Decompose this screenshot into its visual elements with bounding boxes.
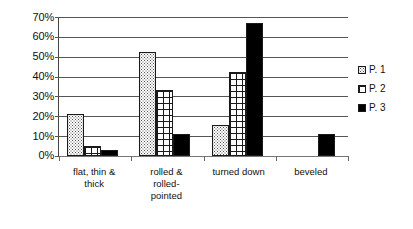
- y-axis-tick-label: 50%: [0, 51, 54, 62]
- x-axis-label-line: turned down: [203, 166, 275, 178]
- gridline: [59, 116, 348, 117]
- gridline: [59, 136, 348, 137]
- x-axis-label-line: beveled: [275, 166, 347, 178]
- x-axis-tick: [204, 156, 205, 161]
- gridline: [59, 77, 348, 78]
- legend-item-p3: P. 3: [358, 98, 413, 117]
- bar-series-3-category-1: [101, 150, 118, 156]
- x-axis-label-line: rolled-: [130, 178, 202, 190]
- gridline: [59, 17, 348, 18]
- y-axis-tick-label: 70%: [0, 12, 54, 23]
- plot-area: [58, 17, 348, 157]
- y-axis-tick-label: 10%: [0, 131, 54, 142]
- x-axis-label-line: pointed: [130, 190, 202, 202]
- bar-series-2-category-2: [156, 90, 173, 156]
- bar-series-1-category-1: [67, 114, 84, 156]
- x-axis-label-line: thick: [58, 178, 130, 190]
- gridline: [59, 96, 348, 97]
- legend-item-p1: P. 1: [358, 60, 413, 79]
- y-axis-tick: [55, 96, 59, 97]
- x-axis-label-line: rolled &: [130, 166, 202, 178]
- bar-series-2-category-3: [229, 72, 246, 156]
- bar-chart: 70% 60% 50% 40% 30% 20% 10% 0%: [0, 0, 413, 229]
- bar-series-2-category-1: [84, 146, 101, 156]
- y-axis-tick-label: 60%: [0, 31, 54, 42]
- legend-swatch-icon: [358, 66, 366, 74]
- legend-label: P. 2: [369, 84, 386, 94]
- bar-series-3-category-4: [318, 134, 335, 156]
- bar-series-3-category-2: [173, 134, 190, 156]
- bar-series-1-category-2: [139, 52, 156, 156]
- y-axis-tick-label: 20%: [0, 111, 54, 122]
- x-axis-tick: [276, 156, 277, 161]
- y-axis-tick: [55, 37, 59, 38]
- legend-swatch-icon: [358, 104, 366, 112]
- y-axis-tick-label: 40%: [0, 71, 54, 82]
- y-axis-tick: [55, 57, 59, 58]
- x-axis-tick: [131, 156, 132, 161]
- x-axis-labels: flat, thin & thick rolled & rolled- poin…: [58, 166, 347, 228]
- bar-series-1-category-3: [212, 125, 229, 156]
- gridline: [59, 37, 348, 38]
- x-axis-label-line: flat, thin &: [58, 166, 130, 178]
- legend-label: P. 1: [369, 65, 386, 75]
- legend-label: P. 3: [369, 103, 386, 113]
- legend: P. 1 P. 2 P. 3: [358, 60, 413, 117]
- y-axis-tick-label: 0%: [0, 150, 54, 161]
- y-axis-labels: 70% 60% 50% 40% 30% 20% 10% 0%: [0, 0, 54, 229]
- y-axis-tick: [55, 136, 59, 137]
- legend-swatch-icon: [358, 85, 366, 93]
- gridline: [59, 57, 348, 58]
- y-axis-tick-label: 30%: [0, 91, 54, 102]
- y-axis-tick: [55, 116, 59, 117]
- x-axis-tick: [59, 156, 60, 161]
- legend-item-p2: P. 2: [358, 79, 413, 98]
- bar-series-3-category-3: [246, 23, 263, 156]
- x-axis-tick: [348, 156, 349, 161]
- y-axis-tick: [55, 17, 59, 18]
- y-axis-tick: [55, 77, 59, 78]
